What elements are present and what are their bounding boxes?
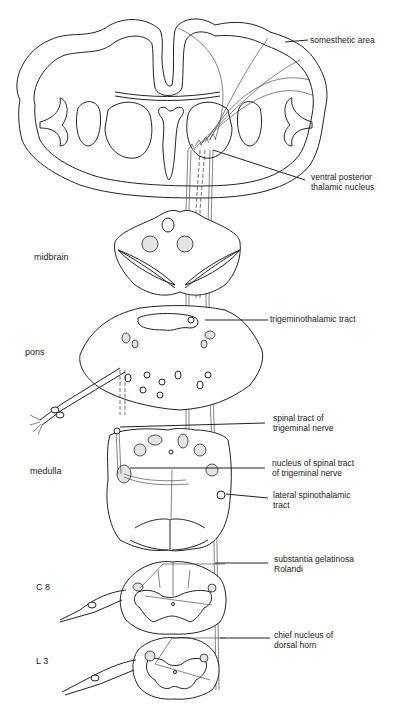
label-lateral-spinothalamic-tract: lateral spinothalamic tract	[273, 490, 350, 510]
level-label-midbrain: midbrain	[34, 252, 69, 262]
pons-section	[80, 306, 263, 415]
label-ventral-posterior-thalamic-nucleus: ventral posterior thalamic nucleus	[311, 172, 374, 192]
label-substantia-gelatinosa-rolandi: substantia gelatinosa Rolandi	[274, 554, 354, 574]
spinal-tract-marker	[114, 428, 120, 434]
label-trigeminothalamic-tract: trigeminothalamic tract	[270, 314, 356, 324]
level-label-pons: pons	[25, 347, 45, 357]
level-label-c8: C 8	[36, 582, 50, 592]
c8-substantia-gelatinosa	[133, 583, 143, 591]
c8-spinal-cord	[60, 562, 226, 635]
red-nucleus-right	[177, 236, 193, 252]
trigeminothalamic-tract-marker	[188, 317, 194, 323]
medulla-section	[107, 428, 231, 551]
lateral-spinothalamic-marker	[217, 491, 225, 499]
midbrain-outline	[115, 210, 241, 295]
neuroanatomy-diagram	[0, 0, 398, 707]
l3-chief-nucleus	[145, 651, 155, 661]
midbrain-section	[115, 210, 241, 295]
label-somesthetic-area: somesthetic area	[310, 35, 375, 45]
l3-spinal-cord	[62, 638, 225, 700]
cerebrum-section	[17, 19, 327, 198]
label-spinal-tract-of-trigeminal-nerve: spinal tract of trigeminal nerve	[273, 413, 333, 433]
level-label-l3: L 3	[36, 656, 48, 666]
medulla-outline	[107, 429, 231, 551]
red-nucleus-left	[142, 236, 158, 252]
cerebral-aqueduct	[162, 218, 174, 232]
label-chief-nucleus-of-dorsal-horn: chief nucleus of dorsal horn	[274, 630, 333, 650]
level-label-medulla: medulla	[30, 466, 62, 476]
label-nucleus-of-spinal-tract: nucleus of spinal tract of trigeminal ne…	[272, 458, 354, 478]
